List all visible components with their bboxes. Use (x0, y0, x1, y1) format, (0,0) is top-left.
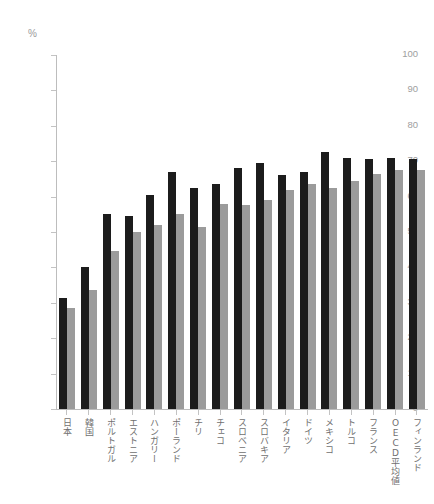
x-axis-tick-mark (154, 410, 155, 415)
bar-light (133, 232, 141, 409)
bar-group (144, 55, 166, 409)
x-axis-label-cell: ポーランド (165, 418, 187, 500)
x-axis-tick (253, 410, 275, 415)
x-axis-label-cell: 韓国 (78, 418, 100, 500)
bar-group (56, 55, 78, 409)
bar-group (209, 55, 231, 409)
x-axis-tick (165, 410, 187, 415)
bar-dark (81, 267, 89, 409)
bar-dark (190, 188, 198, 409)
bar-dark (409, 159, 417, 409)
x-axis-tick (56, 410, 78, 415)
x-axis-tick-mark (132, 410, 133, 415)
bar-dark (234, 168, 242, 409)
x-axis-label-cell: トルコ (340, 418, 362, 500)
x-axis-label-cell: フランス (362, 418, 384, 500)
bar-dark (146, 195, 154, 409)
x-axis-tick-mark (220, 410, 221, 415)
x-axis-label-cell: チリ (187, 418, 209, 500)
bar-group (165, 55, 187, 409)
x-axis-label: ポーランド (172, 418, 181, 463)
x-axis-label: スロベニア (237, 418, 246, 463)
bar-light (89, 290, 97, 409)
x-axis-label: フィンランド (412, 418, 421, 472)
x-axis-tick-mark (241, 410, 242, 415)
bar-dark (212, 184, 220, 409)
x-axis-tick-mark (110, 410, 111, 415)
bar-light (351, 181, 359, 409)
plot-area: 0102030405060708090100 (56, 55, 428, 409)
bar-group (122, 55, 144, 409)
x-axis-label: 日本 (62, 418, 71, 436)
x-axis-label-cell: イタリア (275, 418, 297, 500)
bar-group (231, 55, 253, 409)
x-axis-label: ドイツ (303, 418, 312, 445)
bar-light (176, 214, 184, 409)
x-axis-label: 韓国 (84, 418, 93, 436)
bar-group (362, 55, 384, 409)
bar-light (198, 227, 206, 409)
x-axis-label: OECD平均値 (391, 418, 400, 485)
x-axis-tick-mark (351, 410, 352, 415)
x-axis-ticks (56, 410, 428, 415)
x-axis-tick (384, 410, 406, 415)
bar-light (373, 174, 381, 409)
bar-dark (59, 298, 67, 410)
bar-dark (387, 158, 395, 409)
x-axis-tick-mark (416, 410, 417, 415)
x-axis-label-cell: チェコ (209, 418, 231, 500)
bar-dark (278, 175, 286, 409)
x-axis-label-cell: OECD平均値 (384, 418, 406, 500)
bar-group (100, 55, 122, 409)
x-axis-label-cell: エストニア (122, 418, 144, 500)
x-axis-tick-mark (88, 410, 89, 415)
bar-light (417, 170, 425, 409)
x-axis-label: ハンガリー (150, 418, 159, 463)
x-axis-tick-mark (373, 410, 374, 415)
bar-group (78, 55, 100, 409)
x-axis-label-cell: メキシコ (319, 418, 341, 500)
x-axis-tick (340, 410, 362, 415)
bar-dark (343, 158, 351, 409)
x-axis-tick (231, 410, 253, 415)
x-axis-tick-mark (198, 410, 199, 415)
x-axis-tick-mark (329, 410, 330, 415)
bar-group (275, 55, 297, 409)
bar-chart: % 0102030405060708090100 日本韓国ポルトガルエストニアハ… (0, 0, 434, 504)
x-axis-label-cell: スロバキア (253, 418, 275, 500)
x-axis-label-cell: ポルトガル (100, 418, 122, 500)
bar-light (220, 204, 228, 409)
x-axis-tick (122, 410, 144, 415)
bar-light (154, 225, 162, 409)
x-axis-label: スロバキア (259, 418, 268, 463)
x-axis-label: メキシコ (325, 418, 334, 454)
x-axis-label: トルコ (347, 418, 356, 445)
x-axis-tick (187, 410, 209, 415)
x-axis-tick-mark (285, 410, 286, 415)
bar-group (297, 55, 319, 409)
bar-group (319, 55, 341, 409)
x-axis-tick (406, 410, 428, 415)
x-axis-tick (362, 410, 384, 415)
bar-light (67, 308, 75, 409)
x-axis-tick-mark (395, 410, 396, 415)
bar-groups (56, 55, 428, 409)
bar-light (308, 184, 316, 409)
x-axis-tick-mark (66, 410, 67, 415)
x-axis-label-cell: スロベニア (231, 418, 253, 500)
bar-light (242, 205, 250, 409)
bar-light (264, 200, 272, 409)
bar-light (329, 188, 337, 409)
bar-dark (300, 172, 308, 409)
y-axis-unit-label: % (28, 28, 37, 39)
x-axis-tick-mark (176, 410, 177, 415)
x-axis-labels: 日本韓国ポルトガルエストニアハンガリーポーランドチリチェコスロベニアスロバキアイ… (56, 418, 428, 500)
x-axis-label: ポルトガル (106, 418, 115, 463)
bar-group (187, 55, 209, 409)
x-axis-label: フランス (369, 418, 378, 454)
x-axis-tick (78, 410, 100, 415)
x-axis-tick (100, 410, 122, 415)
x-axis-label-cell: 日本 (56, 418, 78, 500)
x-axis-tick-mark (307, 410, 308, 415)
x-axis-label-cell: フィンランド (406, 418, 428, 500)
